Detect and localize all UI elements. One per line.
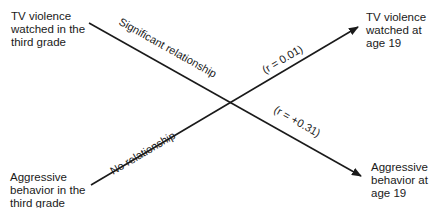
label-coefficient-0-31: (r = +0.31) [272, 103, 323, 139]
cross-lagged-diagram: Significant relationship (r = +0.31) No … [0, 0, 437, 208]
label-no-relationship: No relationship [108, 129, 177, 177]
label-coefficient-0-01: (r = 0.01) [260, 43, 305, 76]
